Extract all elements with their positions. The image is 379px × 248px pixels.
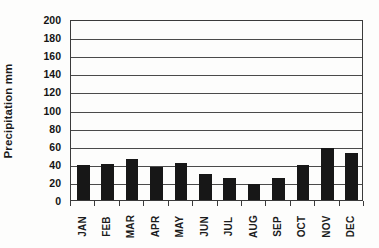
x-axis-tick-label: SEP xyxy=(271,207,285,247)
x-axis-tick xyxy=(314,201,315,206)
x-axis-tick-label-text: APR xyxy=(150,216,161,238)
gridline xyxy=(71,130,362,131)
x-axis-tick xyxy=(119,201,120,206)
x-axis-tick-label: JUN xyxy=(197,207,211,247)
x-axis-tick-labels: JANFEBMARAPRMAYJUNJULAUGSEPOCTNOVDEC xyxy=(70,207,363,248)
bar xyxy=(272,178,285,200)
x-axis-tick-label: APR xyxy=(148,207,162,247)
x-axis-tick xyxy=(290,201,291,206)
y-axis-tick-label: 140 xyxy=(43,69,61,80)
y-axis-tick-label: 120 xyxy=(43,87,61,98)
bar xyxy=(199,174,212,200)
y-axis-tick-label: 0 xyxy=(55,196,61,207)
gridline xyxy=(71,148,362,149)
bar xyxy=(126,159,139,200)
gridline xyxy=(71,57,362,58)
x-axis-tick-label-text: JAN xyxy=(77,216,88,237)
bar xyxy=(321,148,334,200)
y-axis-tick-label: 60 xyxy=(49,141,61,152)
y-axis-tick-label: 80 xyxy=(49,123,61,134)
x-axis-tick-label-text: NOV xyxy=(321,215,332,237)
x-axis-tick-label-text: SEP xyxy=(272,216,283,237)
gridline xyxy=(71,93,362,94)
x-axis-tick-label-text: FEB xyxy=(101,216,112,237)
x-axis-tick-label: AUG xyxy=(246,207,260,247)
y-axis-tick-label: 200 xyxy=(43,15,61,26)
gridline xyxy=(71,166,362,167)
gridline xyxy=(71,184,362,185)
x-axis-tick-label-text: MAR xyxy=(126,215,137,238)
plot-area xyxy=(70,20,363,201)
x-axis-tick-label: NOV xyxy=(319,207,333,247)
x-axis-tick-label-text: JUL xyxy=(223,217,234,237)
bar xyxy=(150,167,163,200)
x-axis-tick-label-text: AUG xyxy=(248,215,259,238)
x-axis-tick xyxy=(192,201,193,206)
bar xyxy=(297,165,310,200)
x-axis-tick-label: DEC xyxy=(344,207,358,247)
x-axis-tick-label: MAY xyxy=(173,207,187,247)
y-axis-tick-label: 180 xyxy=(43,33,61,44)
y-axis-tick-label: 20 xyxy=(49,177,61,188)
x-axis-tick xyxy=(168,201,169,206)
y-axis-tick-label: 160 xyxy=(43,51,61,62)
gridline xyxy=(71,75,362,76)
x-axis-tick-label-text: MAY xyxy=(174,216,185,238)
bar xyxy=(175,163,188,200)
x-axis-tick xyxy=(265,201,266,206)
x-axis-tick-label: FEB xyxy=(100,207,114,247)
y-axis-title: Precipitation mm xyxy=(0,20,16,202)
precipitation-bar-chart: Precipitation mm 02040608010012014016018… xyxy=(0,0,379,248)
x-axis-tick-label: MAR xyxy=(124,207,138,247)
bar xyxy=(223,178,236,200)
y-axis-title-label: Precipitation mm xyxy=(2,64,14,159)
gridline xyxy=(71,39,362,40)
x-axis-tick xyxy=(70,201,71,206)
x-axis-tick-label-text: JUN xyxy=(199,216,210,237)
x-axis-tick-label: OCT xyxy=(295,207,309,247)
x-axis-tick xyxy=(241,201,242,206)
x-axis-tick-label: JAN xyxy=(75,207,89,247)
x-axis-tick xyxy=(363,201,364,206)
x-axis-tick xyxy=(339,201,340,206)
x-axis-tick-label-text: DEC xyxy=(345,216,356,238)
x-axis-tick-label: JUL xyxy=(222,207,236,247)
x-axis-tick xyxy=(143,201,144,206)
y-axis-tick-label: 100 xyxy=(43,105,61,116)
y-axis-tick-labels: 020406080100120140160180200 xyxy=(20,14,64,208)
gridline xyxy=(71,112,362,113)
y-axis-tick-label: 40 xyxy=(49,159,61,170)
bar xyxy=(345,153,358,200)
x-axis-tick xyxy=(94,201,95,206)
bar xyxy=(248,184,261,200)
x-axis-tick xyxy=(217,201,218,206)
bar xyxy=(77,165,90,200)
x-axis-tick-label-text: OCT xyxy=(296,216,307,238)
bar xyxy=(101,164,114,200)
